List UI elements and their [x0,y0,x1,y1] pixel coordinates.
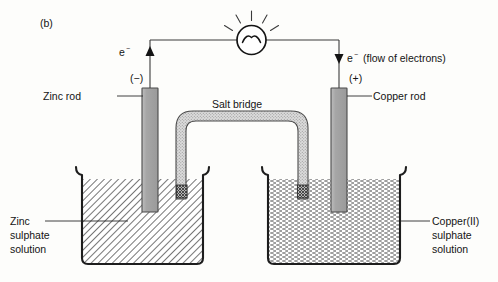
electron-superscript-left: − [126,45,130,52]
left-solution-label-line-3: solution [10,243,46,255]
electron-label-left: e [119,46,125,58]
salt-bridge-label: Salt bridge [212,98,262,110]
electron-superscript-right: − [354,51,358,58]
electron-arrow-left-head [146,46,155,56]
electron-label-right: e [347,52,353,64]
zinc-rod-label: Zinc rod [43,90,81,102]
right-solution-label-line-1: Copper(II) [432,215,479,227]
panel-label: (b) [40,17,53,29]
electron-arrow-right-head [335,54,344,64]
electron-flow-note: (flow of electrons) [363,52,446,64]
right-solution-label-line-3: solution [432,243,468,255]
electron-arrow-right [335,54,344,64]
terminal-sign-positive: (+) [349,72,362,84]
salt-bridge-plug-left [177,185,188,198]
lamp-bulb [225,11,279,55]
zinc-rod-body [142,88,158,212]
lamp-envelope [237,26,266,55]
copper-rod-electrode [331,88,347,212]
terminal-sign-negative: (−) [130,72,143,84]
electron-arrow-left [146,46,155,56]
zinc-rod-electrode [142,88,158,212]
copper-rod-body [331,88,347,212]
cell-diagram-svg: (b) e − e − (flow of electrons) (−) (+) … [0,0,498,282]
electrochemical-cell-figure: (b) e − e − (flow of electrons) (−) (+) … [0,0,498,282]
copper-rod-label: Copper rod [373,90,426,102]
salt-bridge-plug-right [297,185,308,198]
left-solution-label-line-2: sulphate [10,229,50,241]
left-solution-label-line-1: Zinc [10,215,30,227]
right-solution-label-line-2: sulphate [432,229,472,241]
